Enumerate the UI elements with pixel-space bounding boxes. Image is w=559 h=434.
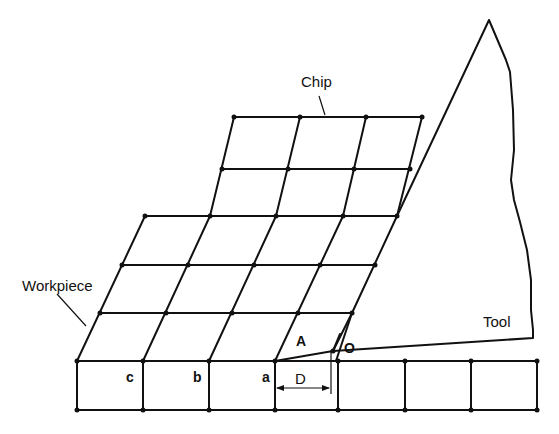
point-b-label: b	[193, 369, 202, 385]
point-c-label: c	[126, 369, 134, 385]
workpiece-leader-line	[57, 294, 86, 326]
workpiece-label: Workpiece	[22, 277, 93, 294]
tool-outline	[333, 20, 533, 351]
point-O-label: O	[344, 340, 355, 356]
grid-nodes	[75, 115, 540, 413]
dimension-d-label: D	[295, 370, 306, 387]
point-a-label: a	[262, 369, 270, 385]
chip-leader-line	[319, 96, 325, 115]
chip-formation-diagram: Chip Workpiece Tool c b a A O D	[0, 0, 559, 434]
tool-label: Tool	[483, 313, 511, 330]
point-A-label: A	[296, 333, 306, 349]
chip-label: Chip	[301, 73, 332, 90]
chip-grid	[210, 117, 422, 216]
workpiece-strip	[77, 351, 537, 410]
